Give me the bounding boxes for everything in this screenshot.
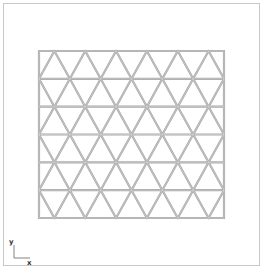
mesh-edge-highlight — [101, 51, 116, 79]
mesh-edge-highlight — [132, 79, 147, 107]
mesh-edge-highlight — [209, 190, 224, 218]
mesh-edge-highlight — [101, 162, 116, 190]
mesh-edge-highlight — [178, 107, 193, 135]
mesh-edge-highlight — [147, 79, 162, 107]
mesh-edge-highlight — [70, 107, 85, 135]
mesh-edge-highlight — [162, 162, 177, 190]
mesh-edge-highlight — [116, 79, 131, 107]
mesh-edge-highlight — [178, 51, 193, 79]
mesh-edge-highlight — [54, 190, 69, 218]
mesh-edge-highlight — [193, 135, 208, 163]
mesh-edge-highlight — [54, 162, 69, 190]
mesh-edge-highlight — [193, 51, 208, 79]
mesh-edge-highlight — [85, 162, 100, 190]
mesh-edge-highlight — [193, 79, 208, 107]
mesh-edge-highlight — [54, 79, 69, 107]
mesh-edge-highlight — [147, 51, 162, 79]
y-axis-label: y — [9, 239, 14, 246]
mesh-edge-highlight — [132, 107, 147, 135]
x-axis-label: x — [27, 260, 32, 267]
mesh-edge-highlight — [193, 162, 208, 190]
mesh-edge-highlight — [70, 190, 85, 218]
mesh-edge-highlight — [39, 135, 54, 163]
mesh-edge-highlight — [85, 135, 100, 163]
mesh-edge-highlight — [101, 190, 116, 218]
mesh-edge-highlight — [178, 190, 193, 218]
mesh-edge-highlight — [178, 79, 193, 107]
mesh-edge-highlight — [178, 162, 193, 190]
mesh-edge-highlight — [162, 79, 177, 107]
mesh-edge-highlight — [132, 162, 147, 190]
mesh-edge-highlight — [147, 162, 162, 190]
mesh-edge-highlight — [70, 79, 85, 107]
mesh-edge-highlight — [193, 190, 208, 218]
mesh-edge-highlight — [39, 79, 54, 107]
mesh-edge-highlight — [162, 51, 177, 79]
mesh-edge-highlight — [116, 135, 131, 163]
mesh-edge-highlight — [39, 107, 54, 135]
mesh-edge-highlight — [85, 107, 100, 135]
mesh-edge-highlight — [209, 135, 224, 163]
mesh-edge-highlight — [132, 135, 147, 163]
mesh-edge-highlight — [101, 107, 116, 135]
mesh-edge-highlight — [54, 135, 69, 163]
mesh-edge-highlight — [116, 190, 131, 218]
mesh-edge-highlight — [85, 190, 100, 218]
mesh-edge-highlight — [54, 51, 69, 79]
mesh-edge-highlight — [132, 190, 147, 218]
mesh-edge-highlight — [39, 162, 54, 190]
mesh-edge-highlight — [193, 107, 208, 135]
mesh-edge-highlight — [39, 190, 54, 218]
mesh-edge-highlight — [85, 51, 100, 79]
mesh-edge-highlight — [162, 107, 177, 135]
mesh-edge-highlight — [162, 135, 177, 163]
axis-triad-lines — [14, 245, 30, 258]
mesh-edge-highlight — [147, 190, 162, 218]
mesh-edge-highlight — [209, 162, 224, 190]
mesh-edge-highlight — [116, 51, 131, 79]
mesh-edge-highlight — [70, 162, 85, 190]
mesh-edge-highlight — [101, 79, 116, 107]
mesh-edge-highlight — [147, 107, 162, 135]
mesh-edge-highlight — [70, 135, 85, 163]
mesh-edge-highlight — [162, 190, 177, 218]
mesh-edge-highlight — [147, 135, 162, 163]
mesh-edge-highlight — [39, 51, 54, 79]
mesh-edge-highlight — [209, 51, 224, 79]
mesh-edge-highlight — [178, 135, 193, 163]
mesh-edge-highlight — [209, 79, 224, 107]
mesh-edge-highlight — [116, 162, 131, 190]
mesh-edge-highlight — [85, 79, 100, 107]
mesh-edge-highlight — [116, 107, 131, 135]
mesh-edge-highlight — [132, 51, 147, 79]
mesh-edge-highlight — [209, 107, 224, 135]
mesh-edge-highlight — [70, 51, 85, 79]
triangular-mesh — [0, 0, 267, 271]
mesh-edges — [39, 51, 224, 218]
mesh-edge-highlight — [101, 135, 116, 163]
mesh-edge-highlight — [54, 107, 69, 135]
